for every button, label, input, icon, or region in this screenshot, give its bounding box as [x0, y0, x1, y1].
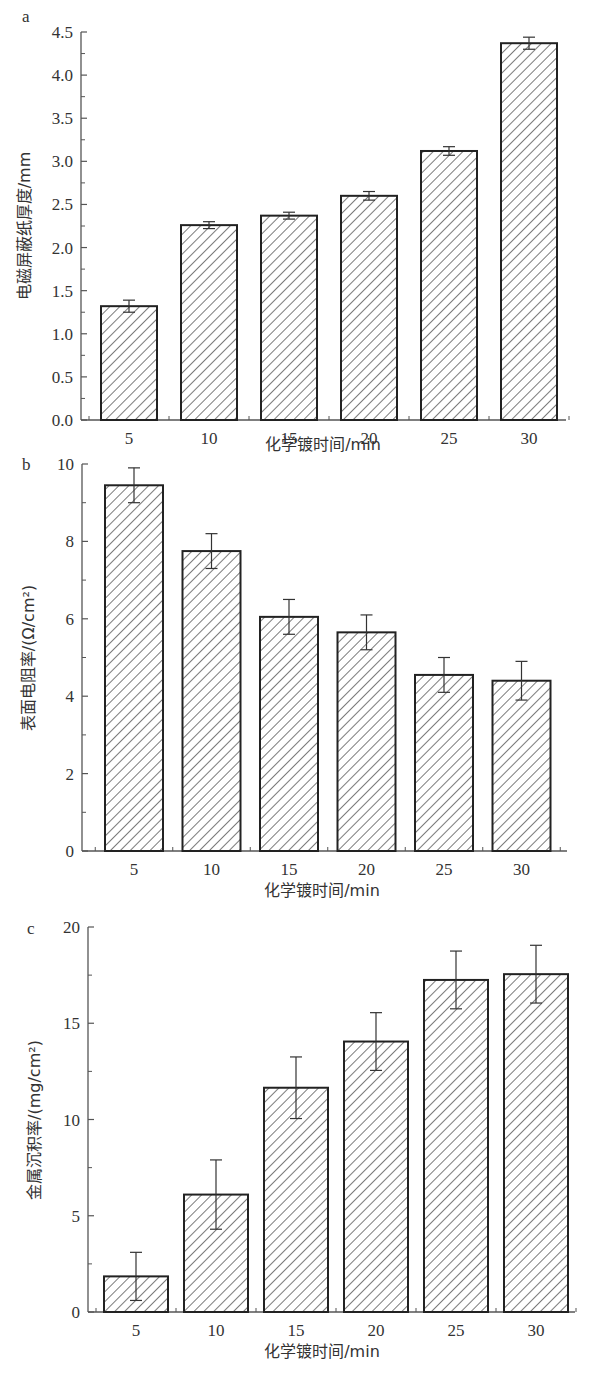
- y-tick-label: 4.5: [52, 23, 73, 42]
- y-axis-title-c: 金属沉积率/(mg/cm²): [25, 1040, 44, 1200]
- y-tick-label: 0: [66, 842, 75, 861]
- y-tick-label: 8: [66, 532, 75, 551]
- y-axis-a: 0.00.51.01.52.02.53.03.54.04.5: [52, 23, 87, 430]
- bar: [341, 196, 397, 420]
- y-tick-label: 15: [63, 1014, 80, 1033]
- x-tick-label: 25: [436, 860, 453, 879]
- x-tick-label: 20: [358, 860, 375, 879]
- x-tick-label: 10: [208, 1321, 225, 1340]
- x-tick-label: 25: [448, 1321, 465, 1340]
- panel-label-c: c: [27, 919, 35, 938]
- x-tick-label: 5: [125, 429, 134, 448]
- y-axis-c: 05101520: [63, 918, 94, 1322]
- y-tick-label: 10: [63, 1111, 80, 1130]
- panel-label-a: a: [22, 7, 30, 26]
- x-tick-label: 5: [132, 1321, 141, 1340]
- y-axis-b: 0246810: [57, 455, 88, 861]
- x-axis-title-a: 化学镀时间/min: [265, 435, 381, 454]
- x-tick-label: 30: [521, 429, 538, 448]
- bar: [501, 43, 557, 420]
- x-axis-title-c: 化学镀时间/min: [264, 1342, 380, 1361]
- x-tick-label: 5: [130, 860, 139, 879]
- y-tick-label: 0: [72, 1303, 81, 1322]
- bar: [105, 485, 163, 851]
- panel-b: b 0246810 51015202530 表面电阻率/(Ω/cm²) 化学镀时…: [19, 455, 567, 900]
- panel-c: c 05101520 51015202530 金属沉积率/(mg/cm²) 化学…: [25, 918, 576, 1361]
- y-axis-title-b: 表面电阻率/(Ω/cm²): [19, 585, 38, 731]
- y-tick-label: 6: [66, 610, 75, 629]
- bar: [101, 306, 157, 420]
- bar: [421, 151, 477, 420]
- bar: [415, 675, 473, 851]
- x-tick-label: 15: [288, 1321, 305, 1340]
- x-tick-label: 10: [201, 429, 218, 448]
- bar: [344, 1042, 408, 1312]
- bar: [260, 617, 318, 851]
- y-tick-label: 0.0: [52, 411, 73, 430]
- y-tick-label: 2.0: [52, 239, 73, 258]
- y-axis-title-a: 电磁屏蔽纸厚度/mm: [15, 152, 34, 301]
- bar: [504, 974, 568, 1312]
- bars-a: [101, 37, 557, 420]
- x-tick-label: 20: [368, 1321, 385, 1340]
- x-tick-label: 15: [281, 860, 298, 879]
- y-tick-label: 5: [72, 1207, 81, 1226]
- y-tick-label: 2: [66, 765, 75, 784]
- y-tick-label: 3.5: [52, 109, 73, 128]
- bar: [261, 216, 317, 420]
- bar: [181, 225, 237, 420]
- y-tick-label: 2.5: [52, 195, 73, 214]
- panel-label-b: b: [22, 455, 31, 474]
- y-tick-label: 1.5: [52, 282, 73, 301]
- y-tick-label: 20: [63, 918, 80, 937]
- x-tick-label: 30: [528, 1321, 545, 1340]
- bars-b: [105, 468, 551, 851]
- bar: [183, 551, 241, 851]
- bar: [338, 632, 396, 851]
- x-tick-label: 25: [441, 429, 458, 448]
- bar: [493, 681, 551, 851]
- bars-c: [104, 945, 568, 1312]
- y-tick-label: 4: [66, 687, 75, 706]
- y-tick-label: 0.5: [52, 368, 73, 387]
- y-tick-label: 1.0: [52, 325, 73, 344]
- figure: a 0.00.51.01.52.02.53.03.54.04.5 5101520…: [0, 0, 595, 1375]
- y-tick-label: 4.0: [52, 66, 73, 85]
- bar: [424, 980, 488, 1312]
- y-tick-label: 10: [57, 455, 74, 474]
- x-tick-label: 30: [513, 860, 530, 879]
- panel-a: a 0.00.51.01.52.02.53.03.54.04.5 5101520…: [15, 7, 569, 454]
- bar: [264, 1088, 328, 1312]
- x-axis-title-b: 化学镀时间/min: [264, 881, 380, 900]
- x-tick-label: 10: [203, 860, 220, 879]
- y-tick-label: 3.0: [52, 152, 73, 171]
